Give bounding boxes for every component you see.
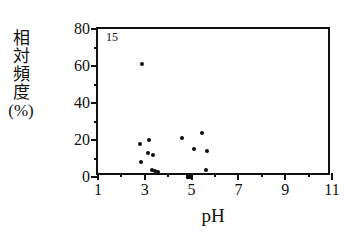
y-axis-title-char-0: 相 (6, 30, 36, 48)
x-axis-tick-label: 3 (141, 182, 149, 198)
x-axis-minor-tick (261, 173, 263, 177)
y-axis-tick (91, 28, 98, 30)
x-axis-tick-label: 1 (94, 182, 102, 198)
data-point (140, 62, 144, 66)
data-point (138, 142, 142, 146)
y-axis-tick-label: 60 (74, 58, 90, 74)
y-axis-tick (91, 65, 98, 67)
y-axis-tick (91, 139, 98, 141)
y-axis-tick-label: 40 (74, 95, 90, 111)
data-point (147, 138, 151, 142)
data-point (200, 131, 204, 135)
y-axis-title: 相対頻度(%) (6, 30, 36, 120)
y-axis-tick-label: 0 (82, 169, 90, 185)
y-axis-minor-tick (94, 47, 98, 49)
x-axis-tick (237, 173, 239, 180)
y-axis-title-char-1: 対 (6, 48, 36, 66)
x-axis-tick (331, 173, 333, 180)
scatter-chart-figure: 相対頻度(%) 15 020406080 1357911 pH (0, 0, 348, 240)
x-axis-minor-tick (120, 173, 122, 177)
y-axis-tick-label: 80 (74, 21, 90, 37)
y-axis-title-char-4: (%) (6, 102, 36, 120)
data-point (205, 149, 209, 153)
data-point (192, 147, 196, 151)
y-axis-minor-tick (94, 84, 98, 86)
data-point (204, 168, 208, 172)
y-axis-minor-tick (94, 158, 98, 160)
y-axis-minor-tick (94, 121, 98, 123)
x-axis-minor-tick (167, 173, 169, 177)
y-axis-tick (91, 102, 98, 104)
x-axis-tick (191, 173, 193, 180)
x-axis-minor-tick (308, 173, 310, 177)
x-axis-title: pH (96, 206, 330, 225)
x-axis-tick (284, 173, 286, 180)
data-point (156, 170, 160, 174)
x-axis-tick-label: 7 (234, 182, 242, 198)
data-point (146, 151, 150, 155)
x-axis-tick (97, 173, 99, 180)
plot-annotation: 15 (106, 31, 118, 43)
x-axis-tick-label: 9 (281, 182, 289, 198)
plot-area: 15 020406080 1357911 (96, 27, 330, 175)
data-point (151, 153, 155, 157)
x-axis-tick-label: 11 (324, 182, 339, 198)
x-axis-tick (144, 173, 146, 180)
data-point (180, 136, 184, 140)
y-axis-tick-label: 20 (74, 132, 90, 148)
x-axis-tick-label: 5 (188, 182, 196, 198)
y-axis-title-char-3: 度 (6, 84, 36, 102)
data-point (139, 160, 143, 164)
y-axis-title-char-2: 頻 (6, 66, 36, 84)
x-axis-minor-tick (214, 173, 216, 177)
